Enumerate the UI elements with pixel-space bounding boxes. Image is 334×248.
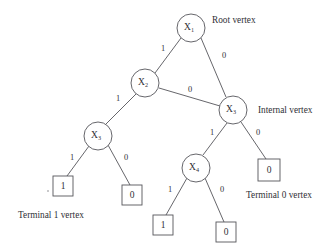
edge-x3left-terminal0	[108, 145, 130, 185]
edge-label-x1-x2: 1	[161, 44, 165, 53]
terminal-group: 1 0 1 0 0	[53, 159, 280, 242]
internal-vertex-x3-left[interactable]: X3	[84, 122, 112, 150]
terminal-node-1-bottom[interactable]: 1	[153, 215, 173, 235]
edge-label-x3left-terminal0: 0	[124, 153, 128, 162]
vertex-subscript: 2	[145, 81, 148, 88]
annotation-root-vertex: Root vertex	[212, 15, 256, 25]
vertex-subscript: 4	[196, 166, 199, 173]
terminal-node-0-bottom[interactable]: 0	[216, 222, 236, 242]
terminal-label: 0	[267, 165, 272, 175]
terminal-label: 1	[61, 181, 66, 191]
annotation-internal-vertex: Internal vertex	[258, 105, 313, 115]
terminal-label: 1	[161, 220, 166, 230]
terminal-node-0-left[interactable]: 0	[122, 185, 142, 205]
edge-label-x1-x3: 0	[222, 51, 226, 60]
internal-vertex-x4[interactable]: X4	[182, 154, 210, 182]
terminal-label: 0	[130, 190, 135, 200]
edge-x1-x3	[201, 38, 226, 97]
vertex-group: X1 X2 X3 X3	[84, 14, 247, 182]
edge-x2-x3left	[106, 94, 136, 124]
vertex-subscript: 3	[98, 134, 101, 141]
edge-label-x3-x4: 1	[210, 128, 214, 137]
edge-label-x4-terminal0: 0	[220, 185, 224, 194]
terminal-node-1-left[interactable]: 1	[53, 176, 73, 196]
edge-x1-x2	[155, 38, 181, 73]
vertex-subscript: 1	[191, 26, 194, 33]
bdd-svg-root: 1 0 1 0 1 0 1 0 1 0 1 0 1	[0, 0, 334, 248]
edge-label-x3-terminal0-right: 0	[256, 128, 260, 137]
annotation-terminal-1-vertex: Terminal 1 vertex	[18, 210, 84, 220]
terminal-label: 0	[224, 227, 229, 237]
terminal-node-0-right[interactable]: 0	[258, 159, 280, 181]
root-vertex-x1[interactable]: X1	[177, 14, 205, 42]
vertex-subscript: 3	[233, 108, 236, 115]
scan-artifact-dot	[47, 190, 48, 191]
internal-vertex-x3-right[interactable]: X3	[219, 96, 247, 124]
internal-vertex-x2[interactable]: X2	[131, 69, 159, 97]
edge-x3-terminal0-right	[241, 122, 266, 159]
bdd-diagram-canvas: 1 0 1 0 1 0 1 0 1 0 1 0 1	[0, 0, 334, 248]
edge-label-x3left-terminal1: 1	[70, 153, 74, 162]
edge-label-x2-x3left: 1	[116, 94, 120, 103]
edge-x3-x4	[203, 123, 227, 155]
annotation-terminal-0-vertex: Terminal 0 vertex	[246, 190, 312, 200]
edge-label-x4-terminal1: 1	[168, 185, 172, 194]
edge-x4-terminal1	[166, 178, 187, 215]
edge-label-x2-x3right: 0	[188, 85, 192, 94]
